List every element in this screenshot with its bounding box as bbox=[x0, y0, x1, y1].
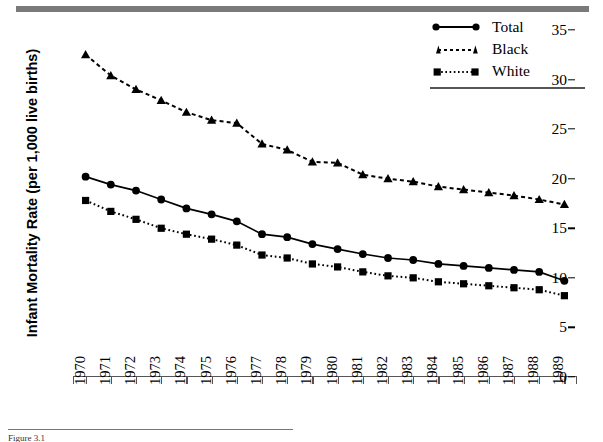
x-tick-label: 1980 bbox=[324, 356, 341, 385]
data-point bbox=[560, 200, 569, 208]
series-white bbox=[82, 197, 568, 299]
x-tick-label: 1977 bbox=[248, 356, 265, 385]
x-tick-label: 1975 bbox=[198, 356, 215, 385]
x-tick-label: 1982 bbox=[374, 356, 391, 385]
data-point bbox=[284, 254, 291, 261]
y-axis-title: Infant Mortality Rate (per 1,000 live bi… bbox=[24, 13, 40, 373]
y-tick-label: 0 bbox=[559, 368, 567, 386]
x-tick-label: 1979 bbox=[298, 356, 315, 385]
data-point bbox=[309, 240, 317, 248]
data-point bbox=[383, 174, 392, 182]
y-tick-label: 15 bbox=[552, 219, 568, 237]
circle-marker-icon bbox=[430, 18, 482, 36]
figure-caption: Figure 3.1 bbox=[8, 433, 45, 442]
data-point bbox=[82, 197, 89, 204]
data-point bbox=[183, 205, 191, 213]
y-tick-mark bbox=[568, 178, 575, 179]
y-tick-mark bbox=[568, 376, 575, 377]
series-total bbox=[82, 173, 569, 285]
data-point bbox=[233, 217, 241, 225]
data-point bbox=[208, 236, 215, 243]
data-point bbox=[106, 71, 115, 79]
y-tick-mark bbox=[568, 228, 575, 229]
series-line bbox=[86, 177, 565, 281]
data-point bbox=[510, 284, 517, 291]
top-rule bbox=[16, 6, 589, 12]
legend-item-white: White bbox=[430, 60, 590, 82]
x-tick-label: 1984 bbox=[424, 356, 441, 385]
data-point bbox=[334, 245, 342, 253]
data-point bbox=[131, 85, 140, 93]
legend-label-white: White bbox=[482, 62, 530, 80]
x-tick-label: 1974 bbox=[172, 356, 189, 385]
data-point bbox=[157, 196, 165, 204]
legend-label-black: Black bbox=[482, 40, 528, 58]
data-point bbox=[157, 96, 166, 104]
x-tick-label: 1988 bbox=[525, 356, 542, 385]
data-point bbox=[435, 260, 443, 268]
data-point bbox=[460, 280, 467, 287]
series-line bbox=[86, 200, 565, 295]
y-tick-mark bbox=[568, 327, 575, 328]
data-point bbox=[435, 278, 442, 285]
data-point bbox=[384, 254, 392, 262]
data-point bbox=[359, 268, 366, 275]
data-point bbox=[485, 264, 493, 272]
legend-label-total: Total bbox=[482, 18, 524, 36]
data-point bbox=[107, 208, 114, 215]
data-point bbox=[232, 119, 241, 127]
x-tick-label: 1978 bbox=[273, 356, 290, 385]
x-tick-label: 1986 bbox=[475, 356, 492, 385]
data-point bbox=[460, 262, 468, 270]
data-point bbox=[535, 268, 543, 276]
x-tick-label: 1973 bbox=[147, 356, 164, 385]
data-point bbox=[308, 157, 317, 165]
data-point bbox=[384, 272, 391, 279]
data-point bbox=[409, 256, 417, 264]
data-point bbox=[183, 231, 190, 238]
square-marker-icon bbox=[430, 62, 482, 80]
data-point bbox=[536, 286, 543, 293]
data-point bbox=[510, 266, 518, 274]
data-point bbox=[309, 260, 316, 267]
data-point bbox=[283, 233, 291, 241]
data-point bbox=[233, 242, 240, 249]
y-tick-label: 10 bbox=[552, 269, 568, 287]
data-point bbox=[258, 230, 266, 238]
data-point bbox=[158, 225, 165, 232]
data-point bbox=[485, 282, 492, 289]
x-tick-label: 1983 bbox=[399, 356, 416, 385]
data-point bbox=[434, 182, 443, 190]
bottom-rule bbox=[8, 429, 293, 430]
y-tick-label: 5 bbox=[559, 318, 567, 336]
x-tick-label: 1987 bbox=[500, 356, 517, 385]
triangle-marker-icon bbox=[430, 40, 482, 58]
legend: Total Black White bbox=[430, 16, 590, 89]
figure-root: Infant Mortality Rate (per 1,000 live bi… bbox=[0, 0, 603, 442]
data-point bbox=[132, 216, 139, 223]
y-tick-mark bbox=[568, 128, 575, 129]
data-point bbox=[208, 210, 216, 218]
x-axis-end-tick bbox=[576, 377, 577, 384]
data-point bbox=[132, 187, 140, 195]
x-tick-label: 1981 bbox=[349, 356, 366, 385]
legend-item-black: Black bbox=[430, 38, 590, 60]
y-tick-label: 20 bbox=[552, 170, 568, 188]
data-point bbox=[334, 263, 341, 270]
data-point bbox=[410, 274, 417, 281]
x-axis-end-tick bbox=[73, 377, 74, 384]
legend-item-total: Total bbox=[430, 16, 590, 38]
x-tick-label: 1976 bbox=[223, 356, 240, 385]
y-tick-mark bbox=[568, 277, 575, 278]
legend-underline bbox=[430, 87, 585, 89]
x-tick-label: 1971 bbox=[97, 356, 114, 385]
data-point bbox=[81, 50, 90, 58]
x-tick-label: 1972 bbox=[122, 356, 139, 385]
data-point bbox=[107, 181, 115, 189]
data-point bbox=[258, 251, 265, 258]
data-point bbox=[182, 108, 191, 116]
y-tick-label: 25 bbox=[552, 120, 568, 138]
data-point bbox=[561, 292, 568, 299]
x-tick-label: 1985 bbox=[450, 356, 467, 385]
data-point bbox=[82, 173, 90, 181]
